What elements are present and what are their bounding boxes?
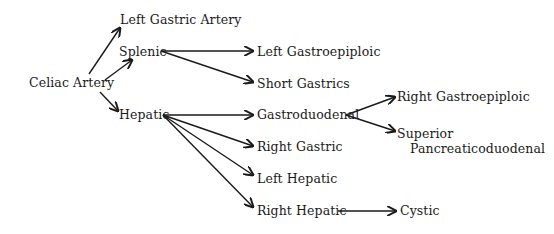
node-superior-pancreaticoduodenal-line2: Pancreaticoduodenal (410, 141, 545, 156)
edge-hepatic-right-hepatic (163, 115, 253, 207)
edge-celiac-hepatic (100, 92, 118, 111)
node-gastroduodenal: Gastroduodenal (257, 107, 359, 122)
node-left-gastric-artery: Left Gastric Artery (120, 12, 242, 27)
node-right-gastroepiploic: Right Gastroepiploic (397, 89, 530, 104)
node-right-hepatic: Right Hepatic (257, 203, 347, 218)
node-short-gastrics: Short Gastrics (257, 76, 350, 91)
node-left-hepatic: Left Hepatic (257, 171, 337, 186)
edge-splenic-short-gastrics (161, 51, 253, 82)
node-superior-pancreaticoduodenal-line1: Superior (397, 126, 453, 141)
node-celiac-artery: Celiac Artery (29, 75, 114, 90)
node-hepatic: Hepatic (119, 107, 169, 122)
edge-celiac-left-gastric (89, 28, 120, 74)
celiac-artery-branch-diagram: Celiac Artery Left Gastric Artery Spleni… (0, 0, 554, 234)
node-left-gastroepiploic: Left Gastroepiploic (257, 44, 381, 59)
edge-hepatic-right-gastric (163, 115, 253, 146)
node-splenic: Splenic (119, 44, 167, 59)
node-cystic: Cystic (400, 203, 440, 218)
node-right-gastric: Right Gastric (257, 139, 343, 154)
edge-hepatic-left-hepatic (163, 115, 253, 175)
